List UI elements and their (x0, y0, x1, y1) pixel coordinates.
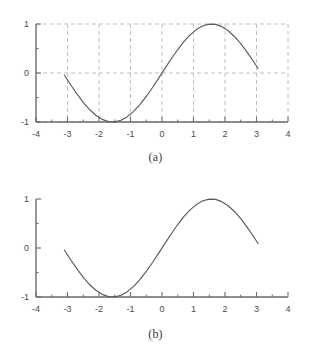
data-curve-sin(x) (64, 199, 258, 297)
figure-panel-a: -4-3-2-101234-101 (a) (0, 0, 311, 175)
y-tick-label: 1 (24, 194, 29, 204)
x-tick-label: 0 (159, 304, 164, 314)
x-tick-label: 4 (285, 129, 290, 139)
x-tick-label: -2 (95, 129, 103, 139)
x-tick-label: 3 (254, 129, 259, 139)
x-tick-label: -4 (32, 304, 40, 314)
plot-area-b: -4-3-2-101234-101 (0, 175, 311, 323)
x-tick-label: -3 (63, 129, 71, 139)
x-tick-label: 2 (222, 129, 227, 139)
x-tick-label: -1 (126, 304, 134, 314)
line-chart-b: -4-3-2-101234-101 (0, 175, 311, 323)
x-tick-label: 1 (191, 129, 196, 139)
x-tick-label: 4 (285, 304, 290, 314)
figure-caption-b: (b) (0, 327, 311, 342)
x-tick-label: -4 (32, 129, 40, 139)
line-chart-a: -4-3-2-101234-101 (0, 0, 311, 148)
x-tick-label: -1 (126, 129, 134, 139)
x-tick-label: 0 (159, 129, 164, 139)
x-tick-label: -3 (63, 304, 71, 314)
figure-panel-b: -4-3-2-101234-101 (b) (0, 175, 311, 351)
figure-caption-a: (a) (0, 150, 311, 165)
plot-area-a: -4-3-2-101234-101 (0, 0, 311, 148)
x-tick-label: 2 (222, 304, 227, 314)
x-tick-label: -2 (95, 304, 103, 314)
x-tick-label: 3 (254, 304, 259, 314)
y-tick-label: -1 (21, 117, 29, 127)
y-tick-label: 0 (24, 68, 29, 78)
y-tick-label: -1 (21, 292, 29, 302)
y-tick-label: 1 (24, 19, 29, 29)
x-tick-label: 1 (191, 304, 196, 314)
y-tick-label: 0 (24, 243, 29, 253)
